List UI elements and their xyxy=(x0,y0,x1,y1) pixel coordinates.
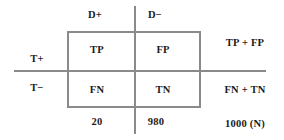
grand-total: 1000 (N) xyxy=(225,119,265,130)
row-total-test-positive: TP + FP xyxy=(226,38,264,49)
cell-false-positive: FP xyxy=(156,45,169,56)
row-header-test-negative: T− xyxy=(30,83,43,94)
matrix-outer-box xyxy=(67,31,201,108)
column-total-disease-negative: 980 xyxy=(148,117,164,128)
row-total-test-negative: FN + TN xyxy=(224,85,265,96)
column-total-disease-positive: 20 xyxy=(92,117,103,128)
cell-false-negative: FN xyxy=(90,85,104,96)
column-header-disease-negative: D− xyxy=(148,10,162,21)
row-header-test-positive: T+ xyxy=(30,54,43,65)
cell-true-negative: TN xyxy=(156,85,171,96)
contingency-table-diagram: D+ D− T+ T− TP FP FN TN TP + FP FN + TN … xyxy=(0,0,284,140)
column-header-disease-positive: D+ xyxy=(88,10,102,21)
cell-true-positive: TP xyxy=(90,45,104,56)
